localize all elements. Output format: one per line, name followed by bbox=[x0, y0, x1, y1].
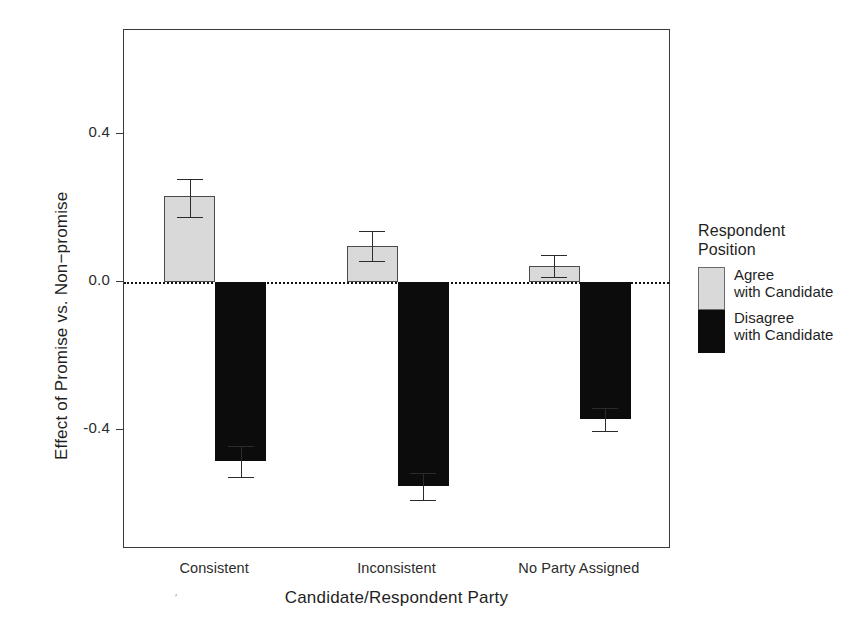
error-bar-cap bbox=[228, 446, 254, 447]
legend-label-disagree-line-2: with Candidate bbox=[734, 326, 833, 343]
y-tick-mark bbox=[116, 281, 123, 282]
chart-figure: Effect of Promise vs. Non−promise 0.40.0… bbox=[0, 0, 859, 626]
error-bar-cap bbox=[177, 217, 203, 218]
legend-label-agree-line-2: with Candidate bbox=[734, 283, 833, 300]
y-tick-label: 0.0 bbox=[50, 271, 110, 288]
error-bar-cap bbox=[541, 277, 567, 278]
y-tick-mark bbox=[116, 133, 123, 134]
bar-disagree bbox=[215, 282, 266, 461]
legend-label-agree: Agree with Candidate bbox=[734, 266, 833, 301]
plot-panel bbox=[123, 29, 670, 548]
x-axis-title: Candidate/Respondent Party bbox=[123, 588, 670, 608]
error-bar-cap bbox=[410, 500, 436, 501]
y-tick-mark bbox=[116, 429, 123, 430]
bar-disagree bbox=[580, 282, 631, 419]
y-tick-label: -0.4 bbox=[50, 419, 110, 436]
error-bar-stem bbox=[423, 473, 424, 499]
error-bar-stem bbox=[241, 446, 242, 478]
error-bar-cap bbox=[592, 431, 618, 432]
y-tick-label: 0.4 bbox=[50, 123, 110, 140]
legend-item-disagree[interactable]: Disagree with Candidate bbox=[698, 310, 856, 353]
error-bar-cap bbox=[359, 261, 385, 262]
error-bar-stem bbox=[554, 255, 555, 277]
error-bar-cap bbox=[592, 408, 618, 409]
legend-label-agree-line-1: Agree bbox=[734, 266, 774, 283]
plot-area bbox=[124, 30, 669, 547]
error-bar-stem bbox=[372, 231, 373, 262]
error-bar-cap bbox=[541, 255, 567, 256]
x-tick-label: Consistent bbox=[114, 560, 314, 576]
error-bar-cap bbox=[410, 473, 436, 474]
bar-disagree bbox=[398, 282, 449, 486]
legend-title: Respondent Position bbox=[698, 222, 856, 260]
legend-label-disagree-line-1: Disagree bbox=[734, 309, 794, 326]
x-tick-label: Inconsistent bbox=[297, 560, 497, 576]
error-bar-cap bbox=[359, 231, 385, 232]
legend-label-disagree: Disagree with Candidate bbox=[734, 309, 833, 344]
error-bar-stem bbox=[605, 408, 606, 431]
legend-title-line-1: Respondent bbox=[698, 222, 856, 241]
legend-title-line-2: Position bbox=[698, 241, 856, 260]
scan-artifact-mark: ′ bbox=[175, 592, 177, 604]
error-bar-cap bbox=[228, 477, 254, 478]
legend: Respondent Position Agree with Candidate… bbox=[698, 222, 856, 353]
legend-swatch-disagree-icon bbox=[698, 310, 725, 353]
x-tick-label: No Party Assigned bbox=[479, 560, 679, 576]
error-bar-stem bbox=[190, 179, 191, 217]
error-bar-cap bbox=[177, 179, 203, 180]
legend-swatch-agree-icon bbox=[698, 267, 725, 310]
legend-item-agree[interactable]: Agree with Candidate bbox=[698, 267, 856, 310]
